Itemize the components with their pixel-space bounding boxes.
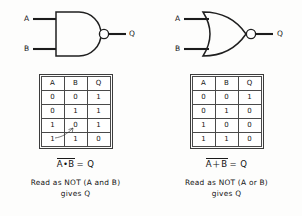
cell-a: 1 xyxy=(192,119,215,133)
nand-truth-table: A B Q 0 0 1 0 1 xyxy=(41,76,111,147)
nor-caption-line1: Read as NOT (A or B) xyxy=(185,178,268,187)
table-row: 1 1 0 xyxy=(192,133,261,147)
cell-b: 1 xyxy=(215,133,238,147)
cell-q: 0 xyxy=(238,105,261,119)
nor-gate-diagram: A B Q xyxy=(151,2,302,68)
nand-equation-tail: = Q xyxy=(75,159,95,170)
nor-input-a-label: A xyxy=(175,14,180,23)
nor-caption: Read as NOT (A or B) gives Q xyxy=(151,177,302,199)
nand-gate-diagram: A B Q xyxy=(0,2,151,68)
nor-truth-table: A B Q 0 0 1 0 1 xyxy=(192,76,262,147)
cell-q: 1 xyxy=(87,119,110,133)
column-header-b: B xyxy=(64,77,87,91)
column-header-b: B xyxy=(215,77,238,91)
column-header-q: Q xyxy=(87,77,110,91)
cell-b: 1 xyxy=(215,105,238,119)
figure-canvas: A B Q A B Q 0 0 xyxy=(0,0,302,216)
cell-q: 1 xyxy=(238,91,261,105)
cell-q: 0 xyxy=(238,133,261,147)
cell-a: 1 xyxy=(192,133,215,147)
cell-a: 0 xyxy=(41,105,64,119)
cell-q: 1 xyxy=(87,105,110,119)
nand-equation: A•B= Q xyxy=(0,158,151,170)
nand-input-a-label: A xyxy=(24,14,29,23)
cell-a: 0 xyxy=(41,91,64,105)
cell-q: 1 xyxy=(87,91,110,105)
nand-truth-table-wrap: A B Q 0 0 1 0 1 xyxy=(0,74,151,152)
cell-q: 0 xyxy=(238,119,261,133)
nand-caption-line1: Read as NOT (A and B) xyxy=(31,178,121,187)
table-row: 0 1 1 xyxy=(41,105,110,119)
column-header-a: A xyxy=(192,77,215,91)
table-row: 1 0 0 xyxy=(192,119,261,133)
cell-a: 1 xyxy=(41,119,64,133)
nand-output-q-label: Q xyxy=(129,29,135,38)
nor-truth-table-border: A B Q 0 0 1 0 1 xyxy=(190,74,264,149)
nand-caption-line2: gives Q xyxy=(0,188,151,199)
column-header-q: Q xyxy=(238,77,261,91)
cell-b: 1 xyxy=(64,133,87,147)
table-row: 0 0 1 xyxy=(192,91,261,105)
table-header-row: A B Q xyxy=(192,77,261,91)
nor-equation-overbar: A＋B xyxy=(206,158,228,170)
nor-output-q-label: Q xyxy=(277,29,283,38)
nand-panel: A B Q A B Q 0 0 xyxy=(0,0,151,216)
nor-panel: A B Q A B Q 0 0 xyxy=(151,0,302,216)
cell-b: 0 xyxy=(215,91,238,105)
table-row: 1 0 1 xyxy=(41,119,110,133)
nand-truth-table-border: A B Q 0 0 1 0 1 xyxy=(39,74,113,149)
table-row: 0 0 1 xyxy=(41,91,110,105)
nor-truth-table-wrap: A B Q 0 0 1 0 1 xyxy=(151,74,302,152)
cell-b: 1 xyxy=(64,105,87,119)
column-header-a: A xyxy=(41,77,64,91)
cell-b: 0 xyxy=(64,91,87,105)
cell-a: 0 xyxy=(192,91,215,105)
nand-input-b-label: B xyxy=(24,44,29,53)
cell-b: 0 xyxy=(215,119,238,133)
cell-q: 0 xyxy=(87,133,110,147)
nor-equation-tail: = Q xyxy=(228,159,248,170)
cell-a: 0 xyxy=(192,105,215,119)
table-header-row: A B Q xyxy=(41,77,110,91)
nand-equation-overbar: A•B xyxy=(57,158,75,170)
cell-b: 0 xyxy=(64,119,87,133)
table-row: 0 1 0 xyxy=(192,105,261,119)
table-row: 1 1 0 xyxy=(41,133,110,147)
cell-a: 1 xyxy=(41,133,64,147)
nor-equation: A＋B= Q xyxy=(151,158,302,170)
nor-input-b-label: B xyxy=(175,44,180,53)
nor-caption-line2: gives Q xyxy=(151,188,302,199)
nand-caption: Read as NOT (A and B) gives Q xyxy=(0,177,151,199)
